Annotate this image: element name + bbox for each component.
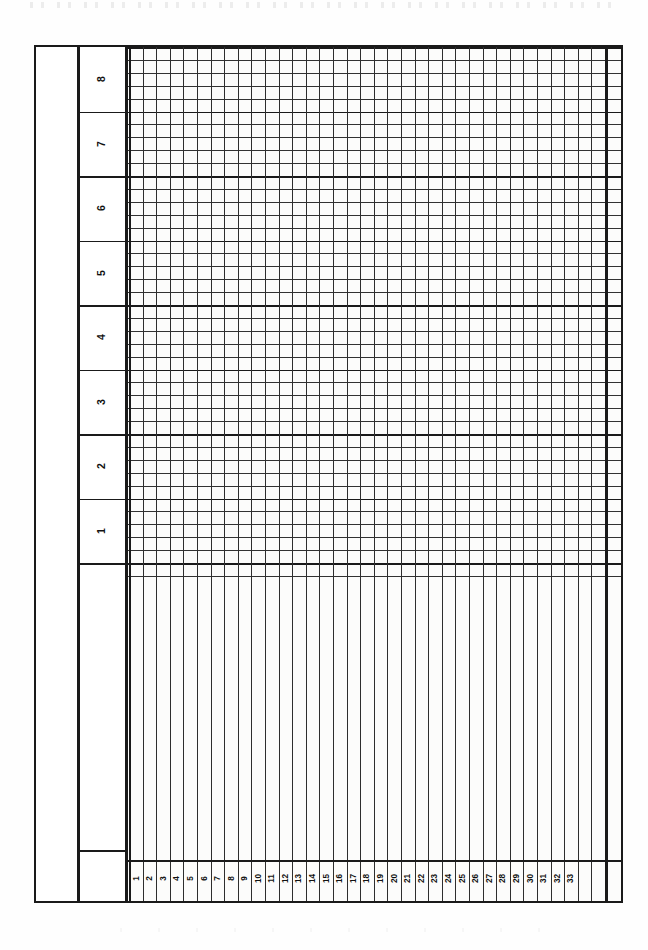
column-number-cell-11[interactable]: 11 — [265, 856, 279, 901]
band-label-text: 8 — [95, 76, 107, 82]
column-number-text: 7 — [213, 876, 222, 881]
column-number-cell-30[interactable]: 30 — [523, 856, 537, 901]
column-number-cell-8[interactable]: 8 — [224, 856, 238, 901]
band-label-text: 3 — [95, 399, 107, 405]
column-number-text: 23 — [430, 874, 439, 883]
grid-vertical-rule — [523, 47, 524, 901]
band-label-text: 1 — [95, 528, 107, 534]
band-label-cell-7[interactable]: 7 — [77, 112, 125, 177]
column-number-cell-4[interactable]: 4 — [170, 856, 184, 901]
grid-vertical-rule — [306, 47, 307, 901]
grid-vertical-rule — [578, 47, 579, 901]
column-number-cell-27[interactable]: 27 — [483, 856, 497, 901]
band-label-text: 7 — [95, 141, 107, 147]
band-label-text: 2 — [95, 463, 107, 469]
band-label-text: 5 — [95, 270, 107, 276]
column-number-cell-24[interactable]: 24 — [442, 856, 456, 901]
column-number-text: 6 — [199, 876, 208, 881]
column-number-cell-21[interactable]: 21 — [401, 856, 415, 901]
grid-vertical-rule — [360, 47, 361, 901]
column-number-cell-33[interactable]: 33 — [564, 856, 578, 901]
column-number-cell-28[interactable]: 28 — [496, 856, 510, 901]
grid-horizontal-rule — [77, 176, 125, 178]
grid-vertical-rule — [401, 47, 402, 901]
column-number-cell-15[interactable]: 15 — [319, 856, 333, 901]
band-label-cell-2[interactable]: 2 — [77, 434, 125, 499]
column-number-cell-blank-1[interactable] — [578, 856, 592, 901]
column-number-text: 13 — [294, 874, 303, 883]
grid-vertical-rule — [129, 47, 131, 901]
column-number-cell-23[interactable]: 23 — [428, 856, 442, 901]
grid-vertical-rule — [197, 47, 198, 901]
column-number-text: 22 — [417, 874, 426, 883]
column-number-cell-6[interactable]: 6 — [197, 856, 211, 901]
grid-vertical-rule — [564, 47, 565, 901]
grid-horizontal-rule — [77, 241, 125, 243]
column-number-cell-29[interactable]: 29 — [510, 856, 524, 901]
column-number-cell-12[interactable]: 12 — [279, 856, 293, 901]
column-number-cell-25[interactable]: 25 — [455, 856, 469, 901]
grid-vertical-rule — [605, 47, 608, 901]
column-number-cell-26[interactable]: 26 — [469, 856, 483, 901]
grid-horizontal-rule — [77, 434, 125, 436]
column-number-cell-19[interactable]: 19 — [374, 856, 388, 901]
grid-vertical-rule — [442, 47, 443, 901]
grid-vertical-rule — [591, 47, 592, 901]
band-label-column: 87654321 — [77, 47, 125, 901]
grid-vertical-rule — [211, 47, 212, 901]
band-label-cell-8[interactable]: 8 — [77, 47, 125, 112]
band-label-text: 4 — [95, 334, 107, 340]
grid-vertical-rule — [251, 47, 252, 901]
band-label-cell-1[interactable]: 1 — [77, 499, 125, 564]
band-label-cell-6[interactable]: 6 — [77, 176, 125, 241]
grid-vertical-rule — [537, 47, 538, 901]
column-number-cell-16[interactable]: 16 — [333, 856, 347, 901]
grid-vertical-rule — [125, 47, 128, 901]
column-number-text: 30 — [526, 874, 535, 883]
column-number-cell-10[interactable]: 10 — [251, 856, 265, 901]
column-number-cell-20[interactable]: 20 — [387, 856, 401, 901]
band-label-text: 6 — [95, 205, 107, 211]
band-label-cell-3[interactable]: 3 — [77, 370, 125, 435]
column-number-cell-3[interactable]: 3 — [156, 856, 170, 901]
grid-vertical-rule — [387, 47, 388, 901]
column-number-text: 18 — [362, 874, 371, 883]
grid-vertical-rule — [77, 47, 80, 901]
column-number-cell-1[interactable]: 1 — [129, 856, 143, 901]
column-number-text: 8 — [226, 876, 235, 881]
grid-horizontal-rule — [77, 563, 125, 565]
band-label-cell-4[interactable]: 4 — [77, 305, 125, 370]
scan-noise-top — [30, 2, 620, 8]
grid-horizontal-rule — [77, 850, 125, 852]
column-number-cell-blank-2[interactable] — [591, 856, 605, 901]
column-number-text: 1 — [131, 876, 140, 881]
grid-vertical-rule — [428, 47, 429, 901]
grid-vertical-rule — [279, 47, 280, 901]
column-number-text: 20 — [390, 874, 399, 883]
column-number-cell-2[interactable]: 2 — [143, 856, 157, 901]
column-number-cell-18[interactable]: 18 — [360, 856, 374, 901]
column-number-cell-32[interactable]: 32 — [551, 856, 565, 901]
column-number-cell-13[interactable]: 13 — [292, 856, 306, 901]
grid-vertical-rule — [265, 47, 266, 901]
column-number-cell-9[interactable]: 9 — [238, 856, 252, 901]
column-number-cell-31[interactable]: 31 — [537, 856, 551, 901]
column-number-cell-5[interactable]: 5 — [183, 856, 197, 901]
column-number-cell-17[interactable]: 17 — [347, 856, 361, 901]
band-label-cell-5[interactable]: 5 — [77, 241, 125, 306]
grid-vertical-rule — [333, 47, 334, 901]
grid-vertical-rule — [347, 47, 348, 901]
column-number-text: 10 — [254, 874, 263, 883]
stub-column[interactable] — [36, 47, 77, 901]
grid-vertical-rule — [551, 47, 552, 901]
column-number-text: 4 — [172, 876, 181, 881]
column-number-cell-22[interactable]: 22 — [415, 856, 429, 901]
column-number-text: 2 — [145, 876, 154, 881]
scan-noise-bottom — [120, 928, 540, 932]
grid-vertical-rule — [496, 47, 497, 901]
grid-vertical-rule — [469, 47, 470, 901]
column-number-cell-7[interactable]: 7 — [211, 856, 225, 901]
column-number-text: 14 — [308, 874, 317, 883]
column-number-text: 28 — [498, 874, 507, 883]
column-number-cell-14[interactable]: 14 — [306, 856, 320, 901]
